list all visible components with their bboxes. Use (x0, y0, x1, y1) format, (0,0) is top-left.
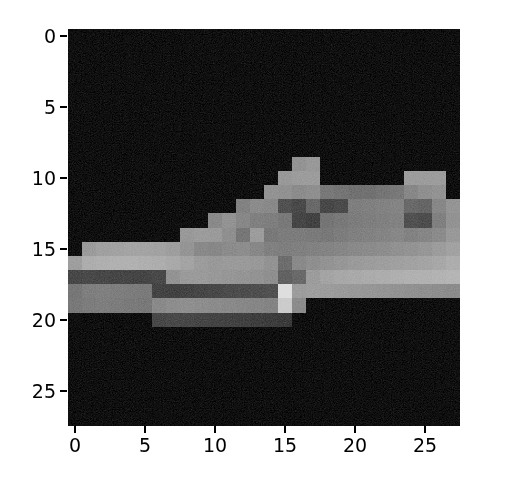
pixel-cell (320, 383, 334, 397)
pixel-cell (348, 29, 362, 43)
pixel-cell (334, 355, 348, 369)
pixel-cell (334, 313, 348, 327)
pixel-cell (82, 270, 96, 284)
pixel-cell (96, 199, 110, 213)
pixel-cell (110, 256, 124, 270)
pixel-cell (376, 298, 390, 312)
pixel-cell (306, 383, 320, 397)
pixel-cell (152, 100, 166, 114)
pixel-cell (152, 142, 166, 156)
pixel-cell (264, 57, 278, 71)
pixel-cell (82, 114, 96, 128)
pixel-cell (376, 157, 390, 171)
x-tick-label-5: 5 (139, 436, 151, 455)
pixel-cell (166, 284, 180, 298)
pixel-cell (404, 355, 418, 369)
pixel-cell (250, 412, 264, 426)
pixel-cell (82, 327, 96, 341)
pixel-cell (278, 157, 292, 171)
pixel-cell (418, 128, 432, 142)
pixel-cell (236, 284, 250, 298)
pixel-cell (180, 72, 194, 86)
pixel-cell (194, 298, 208, 312)
pixel-cell (264, 213, 278, 227)
pixel-cell (124, 128, 138, 142)
pixel-cell (334, 228, 348, 242)
pixel-cell (376, 185, 390, 199)
pixel-cell (278, 228, 292, 242)
pixel-cell (264, 228, 278, 242)
pixel-cell (194, 270, 208, 284)
pixel-cell (446, 383, 460, 397)
pixel-cell (446, 369, 460, 383)
pixel-cell (68, 327, 82, 341)
pixel-cell (390, 398, 404, 412)
pixel-cell (278, 57, 292, 71)
pixel-cell (432, 72, 446, 86)
pixel-cell (110, 327, 124, 341)
pixel-cell (292, 72, 306, 86)
pixel-cell (390, 100, 404, 114)
pixel-cell (222, 341, 236, 355)
pixel-cell (264, 171, 278, 185)
pixel-cell (446, 270, 460, 284)
pixel-cell (334, 171, 348, 185)
pixel-cell (292, 398, 306, 412)
pixel-cell (404, 86, 418, 100)
pixel-cell (180, 341, 194, 355)
pixel-cell (334, 86, 348, 100)
pixel-cell (250, 327, 264, 341)
pixel-cell (292, 171, 306, 185)
pixel-cell (320, 128, 334, 142)
pixel-cell (278, 72, 292, 86)
pixel-cell (404, 57, 418, 71)
pixel-cell (250, 213, 264, 227)
pixel-cell (110, 270, 124, 284)
pixel-cell (222, 213, 236, 227)
pixel-cell (432, 142, 446, 156)
pixel-cell (390, 242, 404, 256)
pixel-cell (222, 100, 236, 114)
pixel-cell (334, 100, 348, 114)
pixel-cell (404, 43, 418, 57)
pixel-cell (292, 228, 306, 242)
pixel-cell (320, 171, 334, 185)
pixel-cell (264, 199, 278, 213)
pixel-cell (334, 72, 348, 86)
pixel-cell (250, 369, 264, 383)
pixel-cell (124, 142, 138, 156)
pixel-cell (348, 284, 362, 298)
pixel-cell (222, 114, 236, 128)
pixel-cell (152, 369, 166, 383)
pixel-cell (208, 412, 222, 426)
pixel-cell (278, 270, 292, 284)
pixel-cell (390, 171, 404, 185)
pixel-cell (180, 157, 194, 171)
pixel-cell (418, 86, 432, 100)
pixel-cell (292, 355, 306, 369)
pixel-cell (418, 398, 432, 412)
pixel-cell (138, 256, 152, 270)
pixel-cell (68, 355, 82, 369)
pixel-cell (446, 29, 460, 43)
pixel-cell (96, 86, 110, 100)
pixel-cell (390, 341, 404, 355)
pixel-cell (110, 383, 124, 397)
pixel-cell (264, 43, 278, 57)
pixel-cell (208, 213, 222, 227)
pixel-cell (306, 199, 320, 213)
pixel-cell (362, 157, 376, 171)
pixel-cell (320, 398, 334, 412)
pixel-cell (320, 256, 334, 270)
pixel-cell (376, 128, 390, 142)
pixel-cell (152, 86, 166, 100)
pixel-cell (404, 412, 418, 426)
pixel-cell (348, 242, 362, 256)
pixel-cell (96, 114, 110, 128)
pixel-cell (404, 270, 418, 284)
pixel-cell (110, 57, 124, 71)
pixel-cell (390, 185, 404, 199)
pixel-cell (166, 270, 180, 284)
pixel-cell (68, 398, 82, 412)
pixel-cell (362, 142, 376, 156)
